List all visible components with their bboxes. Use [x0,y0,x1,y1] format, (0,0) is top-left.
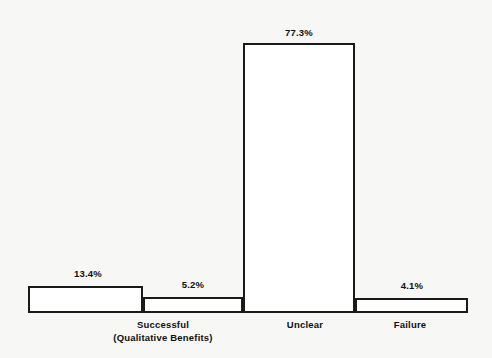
category-label-successful-line2: (Qualitative Benefits) [113,331,212,344]
category-label-successful: Successful (Qualitative Benefits) [113,318,212,344]
bar-value-label-successful-secondary: 5.2% [182,279,204,290]
plot-area: 13.4% 5.2% 77.3% 4.1% Successful (Qualit… [0,0,492,358]
bar-successful[interactable] [28,286,143,313]
bar-value-label-successful: 13.4% [74,268,102,279]
bar-chart: 13.4% 5.2% 77.3% 4.1% Successful (Qualit… [0,0,492,358]
category-label-successful-line1: Successful [137,319,189,330]
bar-value-label-unclear: 77.3% [285,27,313,38]
bar-successful-secondary[interactable] [143,297,243,313]
bar-value-label-failure: 4.1% [401,280,423,291]
bar-failure[interactable] [355,298,468,313]
category-label-unclear: Unclear [287,318,323,331]
bar-unclear[interactable] [243,43,355,313]
category-label-failure: Failure [394,318,427,331]
